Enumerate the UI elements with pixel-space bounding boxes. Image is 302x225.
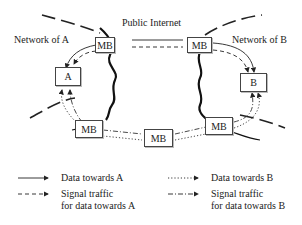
network-b-boundary: [205, 15, 285, 128]
data-towards-a-path: [66, 40, 183, 68]
mb-bottom-right: MB: [205, 117, 233, 135]
mb-bottom-middle: MB: [144, 129, 173, 147]
b-inbound-paths: [213, 43, 254, 72]
mb-bottom-left: MB: [75, 120, 103, 138]
network-b-label: Network of B: [232, 34, 287, 45]
legend-signal-a-line2: for data towards A: [61, 200, 135, 211]
signal-towards-a-path: [74, 47, 183, 64]
host-a: A: [55, 67, 81, 86]
mb-top-right: MB: [187, 37, 212, 53]
public-internet-label: Public Internet: [122, 17, 181, 28]
legend-signal-a-line1: Signal traffic: [61, 188, 113, 199]
mb-top-left: MB: [95, 37, 115, 53]
legend-signal-b-line2: for data towards B: [211, 200, 285, 211]
legend-data-towards-b: Data towards B: [211, 172, 273, 183]
network-a-label: Network of A: [14, 34, 69, 45]
host-b: B: [240, 73, 267, 92]
legend-data-towards-a: Data towards A: [61, 172, 123, 183]
legend-signal-b-line1: Signal traffic: [211, 188, 263, 199]
